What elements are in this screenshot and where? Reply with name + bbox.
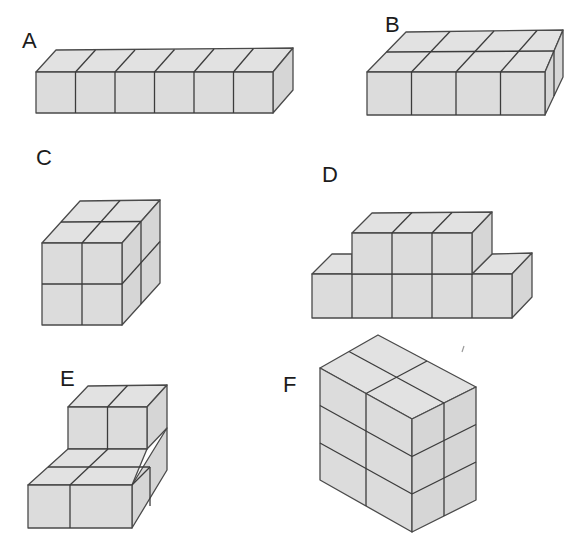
figure-f: F (283, 335, 476, 532)
stray-mark (462, 346, 464, 352)
label-a: A (22, 28, 37, 53)
figure-c: C (36, 145, 160, 325)
figure-b: B (367, 12, 563, 115)
label-e: E (60, 366, 75, 391)
figure-canvas: A B (0, 0, 576, 558)
label-b: B (385, 12, 400, 37)
label-c: C (36, 145, 52, 170)
label-d: D (322, 162, 338, 187)
figure-d: D (312, 162, 532, 318)
figure-a: A (22, 28, 293, 113)
figure-e: E (28, 366, 167, 528)
label-f: F (283, 372, 296, 397)
